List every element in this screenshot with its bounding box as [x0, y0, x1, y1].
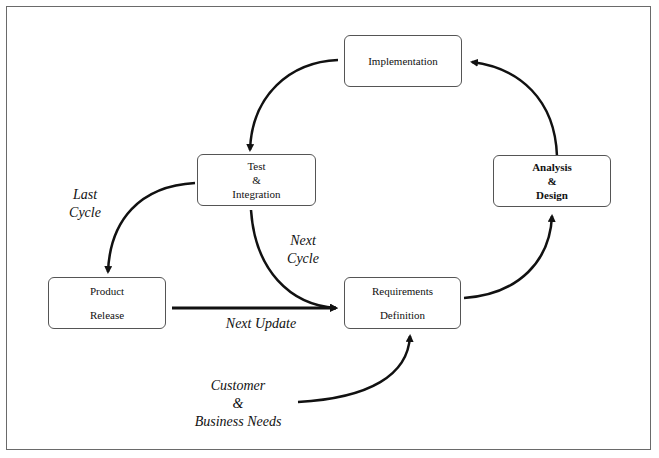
arrow-implementation-to-test [250, 60, 338, 150]
label-line: Business Needs [188, 413, 288, 431]
label-line: Cycle [280, 250, 326, 268]
node-requirements-definition: Requirements Definition [344, 277, 461, 329]
node-label: Integration [232, 187, 280, 201]
label-line: Next Update [206, 315, 316, 333]
node-label: & [252, 173, 261, 187]
label-line: & [188, 395, 288, 413]
label-last-cycle: Last Cycle [62, 186, 108, 222]
node-label: Product [90, 284, 124, 298]
node-label: & [547, 174, 556, 188]
node-label: Test [247, 159, 265, 173]
node-product-release: Product Release [48, 277, 166, 329]
node-label: Implementation [368, 54, 438, 68]
node-label: Requirements [372, 284, 433, 298]
label-next-cycle: Next Cycle [280, 232, 326, 268]
label-line: Customer [188, 377, 288, 395]
node-test-integration: Test & Integration [197, 154, 316, 206]
label-next-update: Next Update [206, 315, 316, 333]
node-label: Design [536, 188, 568, 202]
node-label: Analysis [532, 160, 572, 174]
label-line: Next [280, 232, 326, 250]
label-line: Cycle [62, 204, 108, 222]
label-customer-business-needs: Customer & Business Needs [188, 377, 288, 431]
arrow-requirements-to-analysis [464, 216, 552, 298]
node-label: Release [90, 308, 124, 322]
arrows-layer [0, 0, 659, 458]
arrow-analysis-to-implementation [472, 62, 557, 156]
node-analysis-design: Analysis & Design [493, 155, 611, 207]
arrow-customer-to-requirements [298, 336, 410, 402]
node-implementation: Implementation [344, 35, 462, 87]
label-line: Last [62, 186, 108, 204]
node-label: Definition [380, 308, 425, 322]
arrow-test-to-release [108, 183, 195, 272]
